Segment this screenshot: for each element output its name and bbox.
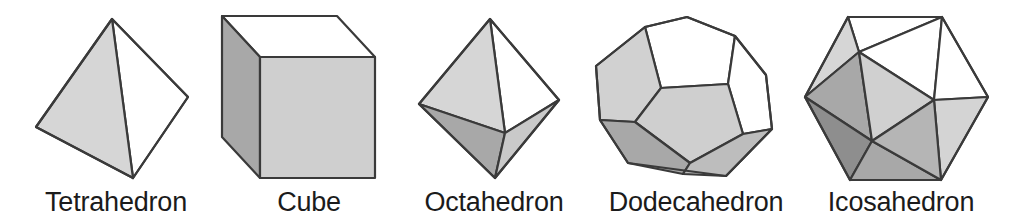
label-octahedron: Octahedron: [386, 185, 602, 219]
icosahedron-shape: [805, 17, 988, 180]
platonic-solids-figure: Tetrahedron Cube Octahedron Dodecahedron…: [0, 0, 1020, 224]
label-icosahedron: Icosahedron: [790, 185, 1012, 219]
octahedron-shape: [419, 19, 559, 178]
dodecahedron-shape: [596, 17, 772, 176]
tetrahedron-shape: [36, 19, 188, 178]
cube-face-front: [260, 57, 375, 178]
label-tetrahedron: Tetrahedron: [0, 185, 232, 219]
label-cube: Cube: [232, 185, 386, 219]
icosahedron-face-top-right: [934, 17, 988, 100]
cube-shape: [222, 16, 375, 178]
label-dodecahedron: Dodecahedron: [602, 185, 790, 219]
